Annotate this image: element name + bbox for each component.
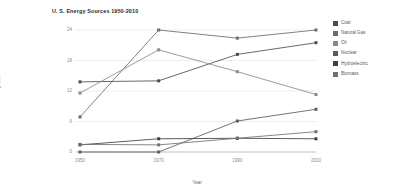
legend-label: Nuclear	[341, 51, 357, 56]
chart-canvas	[52, 22, 322, 160]
chart-title: U. S. Energy Sources 1950-2010	[52, 8, 138, 14]
x-axis-title: Year	[172, 180, 222, 185]
data-point	[157, 143, 160, 146]
legend-item-hydroelectric[interactable]: Hydroelectric	[333, 59, 393, 69]
data-point	[157, 79, 160, 82]
data-point	[79, 92, 82, 95]
data-point	[315, 108, 318, 111]
data-point	[236, 137, 239, 140]
legend-item-coal[interactable]: Coal	[333, 18, 393, 28]
legend-label: Coal	[341, 21, 350, 26]
data-point	[79, 80, 82, 83]
legend-label: Hydroelectric	[341, 62, 368, 67]
data-point	[79, 115, 82, 118]
y-tick-label: 12	[54, 88, 72, 93]
data-point	[315, 130, 318, 133]
series-line-nuclear	[80, 109, 316, 152]
series-line-oil	[80, 50, 316, 95]
y-tick-label: 24	[54, 27, 72, 32]
legend-swatch-icon	[333, 51, 338, 56]
data-point	[236, 53, 239, 56]
x-tick-label: 1950	[65, 158, 95, 163]
x-tick-label: 1990	[222, 158, 252, 163]
x-tick-label: 2010	[301, 158, 331, 163]
data-point	[236, 37, 239, 40]
legend-label: Oil	[341, 41, 347, 46]
legend-item-nuclear[interactable]: Nuclear	[333, 49, 393, 59]
data-point	[157, 137, 160, 140]
data-point	[236, 119, 239, 122]
x-tick-label: 1970	[144, 158, 174, 163]
chart-figure: U. S. Energy Sources 1950-2010 06121824 …	[0, 0, 395, 196]
data-point	[157, 29, 160, 32]
chart-legend: CoalNatural GasOilNuclearHydroelectricBi…	[333, 18, 393, 79]
legend-item-oil[interactable]: Oil	[333, 38, 393, 48]
y-tick-label: 6	[54, 119, 72, 124]
legend-label: Natural Gas	[341, 31, 366, 36]
legend-swatch-icon	[333, 21, 338, 26]
legend-swatch-icon	[333, 31, 338, 36]
plot-area	[52, 22, 322, 160]
y-tick-label: 0	[54, 149, 72, 154]
legend-item-natural-gas[interactable]: Natural Gas	[333, 28, 393, 38]
data-point	[315, 137, 318, 140]
data-point	[315, 29, 318, 32]
legend-swatch-icon	[333, 41, 338, 46]
legend-label: Biomass	[341, 72, 359, 77]
legend-swatch-icon	[333, 72, 338, 77]
data-point	[79, 151, 82, 154]
legend-item-biomass[interactable]: Biomass	[333, 69, 393, 79]
data-point	[236, 70, 239, 73]
data-point	[79, 143, 82, 146]
data-point	[157, 48, 160, 51]
y-tick-label: 18	[54, 58, 72, 63]
series-line-coal	[80, 43, 316, 82]
y-axis-title: Quads	[0, 75, 1, 89]
data-point	[157, 151, 160, 154]
data-point	[315, 93, 318, 96]
data-point	[315, 41, 318, 44]
legend-swatch-icon	[333, 61, 338, 66]
